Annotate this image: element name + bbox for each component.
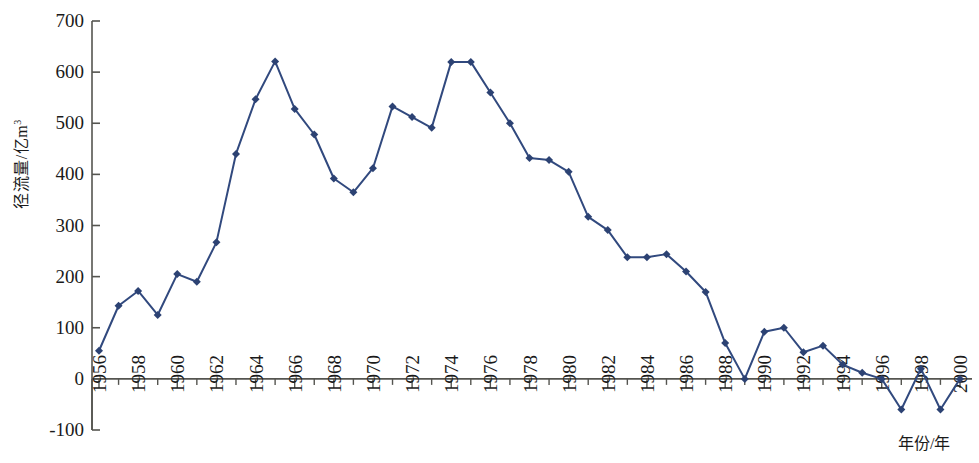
data-point-marker (173, 270, 181, 278)
y-tick-label: 600 (56, 61, 85, 82)
data-point-marker (232, 150, 240, 158)
data-point-marker (447, 58, 455, 66)
y-axis-tick-labels: -1000100200300400500600700 (49, 10, 84, 440)
x-tick-label: 1994 (833, 354, 854, 393)
y-tick-label: 400 (56, 163, 85, 184)
x-tick-label: 1972 (402, 355, 423, 393)
runoff-line-chart: 径流量/亿m3 年份/年 -1000100200300400500600700 … (0, 0, 979, 463)
x-tick-label: 1984 (637, 354, 658, 393)
chart-canvas: -1000100200300400500600700 1956195819601… (0, 0, 979, 463)
y-tick-label: -100 (49, 419, 84, 440)
data-point-marker (389, 102, 397, 110)
x-tick-label: 1962 (206, 355, 227, 393)
data-point-marker (858, 369, 866, 377)
y-tick-label: 200 (56, 266, 85, 287)
x-tick-label: 1986 (676, 355, 697, 393)
x-tick-label: 1978 (520, 355, 541, 393)
x-tick-label: 2000 (950, 355, 971, 393)
data-point-marker (212, 238, 220, 246)
x-tick-label: 1974 (441, 354, 462, 393)
x-tick-label: 1976 (480, 355, 501, 393)
x-tick-label: 1964 (246, 354, 267, 393)
x-tick-label: 1980 (559, 355, 580, 393)
data-point-marker (741, 375, 749, 383)
y-tick-label: 300 (56, 215, 85, 236)
data-point-marker (252, 95, 260, 103)
data-point-marker (271, 57, 279, 65)
x-tick-label: 1968 (324, 355, 345, 393)
x-tick-label: 1960 (167, 355, 188, 393)
x-tick-label: 1996 (872, 355, 893, 393)
x-tick-label: 1982 (598, 355, 619, 393)
x-tick-label: 1988 (715, 355, 736, 393)
data-point-marker (526, 154, 534, 162)
data-point-marker (95, 347, 103, 355)
x-tick-label: 1966 (285, 355, 306, 393)
data-point-marker (721, 339, 729, 347)
data-point-marker (408, 113, 416, 121)
y-tick-label: 700 (56, 10, 85, 31)
y-tick-label: 100 (56, 317, 85, 338)
x-tick-label: 1970 (363, 355, 384, 393)
data-point-marker (643, 253, 651, 261)
data-point-marker (428, 124, 436, 132)
x-tick-label: 1992 (793, 355, 814, 393)
y-tick-label: 500 (56, 112, 85, 133)
x-tick-label: 1990 (754, 355, 775, 393)
x-tick-label: 1958 (128, 355, 149, 393)
data-point-marker (193, 278, 201, 286)
x-axis-group: 1956195819601962196419661968197019721974… (89, 354, 972, 430)
data-point-marker (760, 328, 768, 336)
x-tick-label: 1956 (89, 355, 110, 393)
y-tick-label: 0 (75, 368, 85, 389)
